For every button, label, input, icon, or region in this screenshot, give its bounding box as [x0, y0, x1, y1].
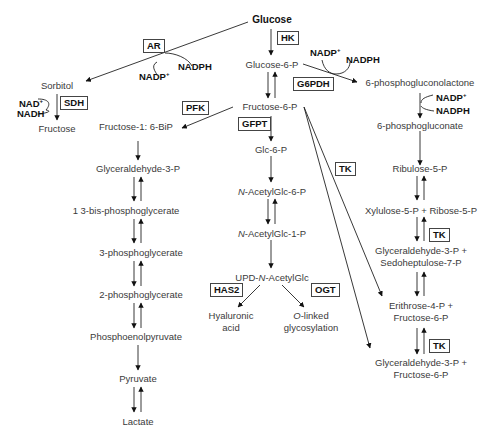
cofactor-ar-nadp: NADP+: [139, 69, 169, 82]
node-xylulose-ribose: Xylulose-5-P + Ribose-5-P: [365, 205, 477, 217]
node-phosphoenolpyruvate: Phosphoenolpyruvate: [90, 331, 182, 343]
node-lactate: Lactate: [122, 416, 153, 428]
label-part: -AcetylGlc: [265, 272, 308, 283]
italic-o: O: [293, 310, 300, 321]
label-part: UPD-: [235, 272, 258, 283]
label-line1: Glyceraldehyde-3-P +: [375, 357, 467, 368]
label-line1: Glyceraldehyde-3-P +: [375, 245, 467, 256]
node-glucose-6-p: Glucose-6-P: [246, 59, 299, 71]
node-hyaluronic-acid: Hyaluronicacid: [209, 310, 254, 334]
node-gap-fructose: Glyceraldehyde-3-P +Fructose-6-P: [375, 357, 467, 381]
enzyme-has2: HAS2: [210, 283, 243, 297]
enzyme-hk: HK: [277, 31, 299, 45]
node-o-linked-glycosylation: O-linkedglycosylation: [284, 310, 338, 334]
node-fructose-6-p: Fructose-6-P: [243, 101, 298, 113]
superscript-plus: +: [337, 47, 341, 53]
superscript-plus: +: [463, 92, 467, 98]
cofactor-label: NADP: [436, 92, 463, 103]
label-line2: Sedoheptulose-7-P: [380, 257, 461, 268]
cofactor-g6pdh-nadp: NADP+: [310, 45, 340, 58]
enzyme-sdh: SDH: [60, 96, 88, 110]
cofactor-g6pdh-nadph: NADPH: [346, 54, 380, 65]
node-glucose: Glucose: [252, 14, 291, 26]
node-fructose: Fructose: [39, 123, 76, 135]
node-glc-6-p: Glc-6-P: [255, 144, 287, 156]
label-rest: -AcetylGlc-6-P: [245, 186, 306, 197]
label-line2: Fructose-6-P: [394, 312, 449, 323]
node-2-phosphoglycerate: 2-phosphoglycerate: [99, 289, 182, 301]
node-sorbitol: Sorbitol: [41, 80, 73, 92]
node-erithrose-fructose: Erithrose-4-P +Fructose-6-P: [389, 300, 453, 324]
enzyme-g6pdh: G6PDH: [293, 77, 334, 91]
enzyme-tk-3: TK: [429, 339, 450, 353]
italic-prefix: N: [238, 228, 245, 239]
node-pyruvate: Pyruvate: [119, 373, 157, 385]
node-6-phosphogluconolactone: 6-phosphogluconolactone: [366, 77, 475, 89]
node-3-phosphoglycerate: 3-phosphoglycerate: [99, 247, 182, 259]
node-ribulose-5-p: Ribulose-5-P: [393, 163, 448, 175]
label-line1: -linked: [301, 310, 329, 321]
label-line1: Erithrose-4-P +: [389, 300, 453, 311]
enzyme-tk-1: TK: [335, 162, 356, 176]
node-gap-sedoheptulose: Glyceraldehyde-3-P +Sedoheptulose-7-P: [375, 245, 467, 269]
label-line2: acid: [222, 322, 239, 333]
enzyme-pfk: PFK: [182, 101, 209, 115]
enzyme-tk-2: TK: [429, 228, 450, 242]
enzyme-ogt: OGT: [311, 283, 340, 297]
cofactor-label: NADP: [139, 71, 166, 82]
cofactor-pgd-nadph: NADPH: [436, 105, 470, 116]
node-n-acetylglc-6-p: N-AcetylGlc-6-P: [238, 186, 306, 198]
node-6-phosphogluconate: 6-phosphogluconate: [377, 120, 463, 132]
node-n-acetylglc-1-p: N-AcetylGlc-1-P: [238, 228, 306, 240]
italic-prefix: N: [238, 186, 245, 197]
label-line2: Fructose-6-P: [394, 369, 449, 380]
node-glyceraldehyde-3-p: Glyceraldehyde-3-P: [96, 163, 180, 175]
cofactor-ar-nadph: NADPH: [178, 61, 212, 72]
cofactor-sdh-nadh: NADH: [17, 108, 44, 119]
superscript-plus: +: [166, 71, 170, 77]
enzyme-gfpt: GFPT: [238, 117, 271, 131]
cofactor-pgd-nadp: NADP+: [436, 90, 466, 103]
cofactor-label: NADP: [310, 47, 337, 58]
label-line2: glycosylation: [284, 322, 338, 333]
enzyme-ar: AR: [143, 39, 165, 53]
label-rest: -AcetylGlc-1-P: [245, 228, 306, 239]
node-udp-n-acetylglc: UPD-N-AcetylGlc: [235, 272, 308, 284]
node-fructose-1-6-bip: Fructose-1: 6-BiP: [99, 121, 173, 133]
node-1-3-bisphosphoglycerate: 1 3-bis-phosphoglycerate: [73, 205, 180, 217]
label-line1: Hyaluronic: [209, 310, 254, 321]
superscript-plus: +: [40, 98, 44, 104]
